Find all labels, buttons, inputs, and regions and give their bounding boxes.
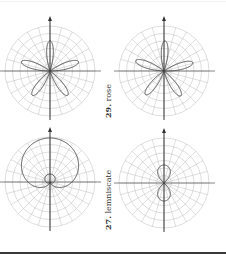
top-edge-line bbox=[0, 1, 226, 2]
polar-plot-lemniscate bbox=[114, 128, 218, 240]
polar-plot-rose-right bbox=[114, 16, 218, 128]
caption-lemniscate: 27. lemniscate bbox=[103, 170, 113, 230]
caption-rose-number: 29. bbox=[103, 104, 113, 118]
caption-lemniscate-text: lemniscate bbox=[104, 170, 113, 216]
polar-plot-cardioid bbox=[0, 127, 104, 239]
polar-grid-lemniscate bbox=[114, 128, 218, 240]
caption-rose-text: rose bbox=[104, 84, 113, 104]
polar-grid-rose-left bbox=[0, 16, 104, 128]
caption-lemniscate-number: 27. bbox=[103, 216, 113, 230]
polar-grid-cardioid bbox=[0, 127, 104, 239]
polar-plot-rose-left bbox=[0, 16, 104, 128]
caption-rose: 29. rose bbox=[103, 84, 113, 118]
bottom-rule bbox=[0, 252, 226, 254]
polar-grid-rose-right bbox=[114, 16, 218, 128]
